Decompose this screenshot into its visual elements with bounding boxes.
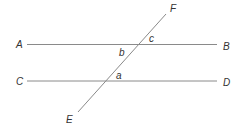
point-label-a: A xyxy=(15,39,23,50)
point-label-d: D xyxy=(223,77,230,88)
point-label-b: B xyxy=(223,41,230,52)
point-label-f: F xyxy=(170,3,177,14)
angle-label-c: c xyxy=(149,33,154,44)
angle-label-b: b xyxy=(119,47,125,58)
point-label-e: E xyxy=(66,114,73,125)
transversal-ef xyxy=(78,14,166,112)
parallel-lines-diagram: A B C D E F c b a xyxy=(0,0,238,133)
point-label-c: C xyxy=(16,76,24,87)
angle-label-a: a xyxy=(116,70,122,81)
